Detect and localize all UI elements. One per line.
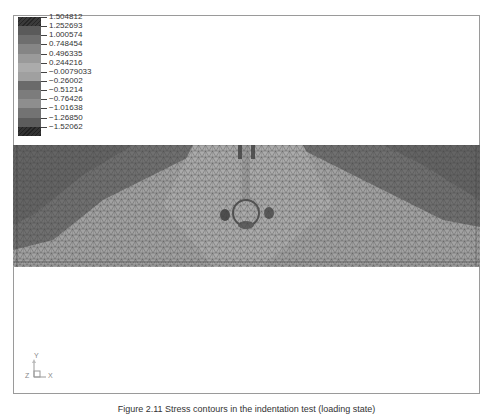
legend-swatch xyxy=(18,108,41,117)
legend-tick xyxy=(41,63,47,64)
legend-tick xyxy=(41,35,47,36)
legend-swatch xyxy=(18,90,41,99)
fe-mesh-contour-plot xyxy=(13,145,480,267)
legend-swatch xyxy=(18,127,41,136)
legend-value: 1.000574 xyxy=(49,31,82,39)
figure-caption: Figure 2.11 Stress contours in the inden… xyxy=(0,404,493,414)
legend-tick xyxy=(41,44,47,45)
legend-swatch xyxy=(18,54,41,63)
axis-y-label: Y xyxy=(34,352,39,359)
legend-tick xyxy=(41,26,47,27)
legend-value: −0.51214 xyxy=(49,86,83,94)
legend-tick xyxy=(41,17,47,18)
legend-value: −1.52062 xyxy=(49,123,83,131)
mesh-graphic xyxy=(13,145,480,267)
legend-swatch xyxy=(18,72,41,81)
legend-tick xyxy=(41,72,47,73)
legend-value: −1.01638 xyxy=(49,104,83,112)
legend-swatch xyxy=(18,99,41,108)
axis-triad: Y Z X xyxy=(22,355,52,389)
legend-tick xyxy=(41,90,47,91)
legend-swatch xyxy=(18,118,41,127)
legend-swatch xyxy=(18,63,41,72)
legend-tick xyxy=(41,54,47,55)
legend-swatch xyxy=(18,81,41,90)
legend-value: 0.496335 xyxy=(49,50,82,58)
legend-swatch xyxy=(18,17,41,26)
legend-value: −0.0079033 xyxy=(49,68,92,76)
legend-swatch xyxy=(18,44,41,53)
legend-tick xyxy=(41,108,47,109)
legend-swatch xyxy=(18,35,41,44)
axis-triad-icon xyxy=(22,355,52,385)
axis-x-label: X xyxy=(48,372,53,379)
legend-value: 0.244216 xyxy=(49,59,82,67)
legend-tick xyxy=(41,81,47,82)
legend-swatch xyxy=(18,26,41,35)
legend-value: −0.76426 xyxy=(49,95,83,103)
legend-tick xyxy=(41,99,47,100)
contour-legend: 1.5048121.2526931.0005740.7484540.496335… xyxy=(18,17,138,136)
legend-value: −0.26002 xyxy=(49,77,83,85)
legend-tick xyxy=(41,127,47,128)
legend-value: 1.504812 xyxy=(49,13,82,21)
legend-tick xyxy=(41,118,47,119)
legend-entry: −1.52062 xyxy=(18,127,138,136)
legend-value: −1.26850 xyxy=(49,114,83,122)
axis-z-label: Z xyxy=(25,372,29,379)
legend-value: 1.252693 xyxy=(49,22,82,30)
legend-value: 0.748454 xyxy=(49,40,82,48)
